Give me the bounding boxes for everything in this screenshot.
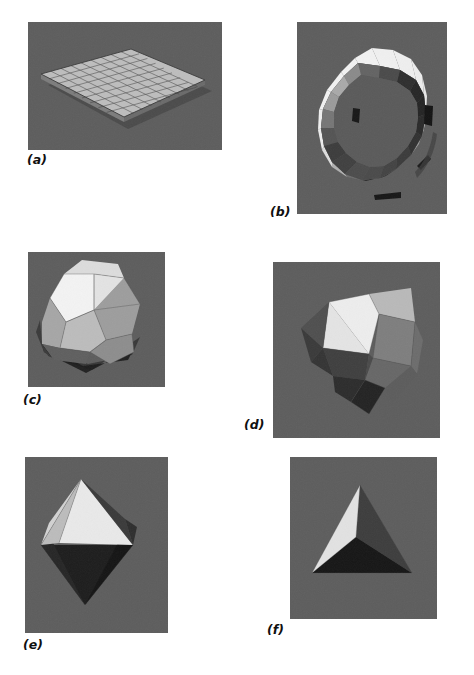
- figure-panel-e: [25, 457, 168, 633]
- figure-caption-f: (f): [267, 624, 284, 637]
- flat-shaded-icosahedron-render: [273, 262, 440, 438]
- figure-caption-e: (e): [23, 639, 43, 652]
- figure-panel-c: [28, 252, 165, 387]
- flat-shaded-octahedron-render: [25, 457, 168, 633]
- figure-caption-c: (c): [23, 394, 42, 407]
- flat-shaded-plane-render: [28, 22, 222, 150]
- figure-panel-a: [28, 22, 222, 150]
- figure-panel-b: [297, 22, 447, 214]
- figure-panel-d: [273, 262, 440, 438]
- figure-caption-b: (b): [270, 206, 290, 219]
- figure-caption-d: (d): [244, 419, 264, 432]
- figure-panel-f: [290, 457, 437, 619]
- figure-plate: (a): [0, 0, 474, 675]
- flat-shaded-torus-render: [297, 22, 447, 214]
- flat-shaded-tetrahedron-render: [290, 457, 437, 619]
- flat-shaded-dodecahedron-render: [28, 252, 165, 387]
- figure-caption-a: (a): [27, 154, 47, 167]
